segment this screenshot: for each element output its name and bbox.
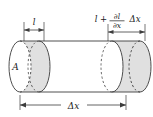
- left-dim-arrow-right: [39, 28, 45, 32]
- left-dim-arrow-left: [24, 28, 30, 32]
- right-delta-x-label: Δx: [129, 14, 141, 24]
- right-dimension: l + ∂l ∂x Δx: [95, 12, 145, 42]
- right-thickness-expression: l + ∂l ∂x Δx: [95, 12, 141, 30]
- axial-length-label: Δx: [67, 101, 80, 111]
- right-thickness-base-label: l: [95, 14, 98, 24]
- right-dim-arrow-right: [140, 30, 146, 34]
- left-dimension: l: [24, 17, 44, 41]
- area-label: A: [11, 62, 19, 72]
- partial-denominator: ∂x: [113, 21, 122, 30]
- figure-container: A l l + ∂: [0, 0, 153, 117]
- partial-numerator: ∂l: [114, 12, 121, 21]
- bottom-dim-arrow-right: [120, 103, 126, 108]
- cylinder-diagram: A l l + ∂: [0, 0, 153, 117]
- bottom-dim-arrow-left: [20, 103, 26, 108]
- right-plus-sign: +: [100, 14, 107, 24]
- right-dim-arrow-left: [108, 30, 114, 34]
- left-thickness-label: l: [33, 17, 36, 27]
- bottom-dimension: Δx: [20, 95, 126, 112]
